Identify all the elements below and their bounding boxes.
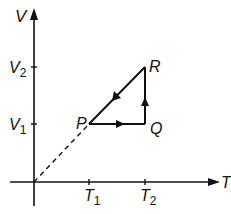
t2-label: T2 <box>140 187 157 208</box>
vt-diagram: V T V2 V1 T1 T2 P Q R <box>0 0 231 214</box>
y-axis-label: V <box>15 7 28 26</box>
v1-label: V1 <box>9 116 27 137</box>
arrow-right-icon <box>116 120 125 128</box>
x-axis-label: T <box>221 174 231 191</box>
y-axis-arrow-icon <box>30 8 38 20</box>
v2-label: V2 <box>9 59 27 80</box>
point-p-label: P <box>76 115 87 132</box>
t1-label: T1 <box>84 187 101 208</box>
diagram-svg: V T V2 V1 T1 T2 P Q R <box>0 0 231 214</box>
arrow-up-icon <box>141 97 149 106</box>
x-axis-arrow-icon <box>208 178 220 186</box>
point-r-label: R <box>149 58 161 75</box>
point-q-label: Q <box>150 120 162 137</box>
dashed-line-origin-to-p <box>34 124 89 182</box>
